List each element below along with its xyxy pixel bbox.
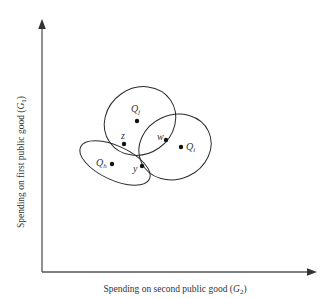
point-qj [135,119,139,123]
indifference-diagram: Qj Qi Qh z w y Spending on second public… [0,0,336,298]
y-axis-title: Spending on first public good (G1) [16,96,28,228]
label-qj: Qj [131,103,140,116]
point-qi [179,145,183,149]
x-axis-title: Spending on second public good (G2) [103,284,246,296]
label-qi: Qi [186,141,195,154]
indifference-ellipse-h [73,132,156,195]
indifference-ellipse-i [128,102,222,191]
point-z [122,142,126,146]
point-qh [110,162,114,166]
label-y: y [132,163,138,174]
point-y [140,164,144,168]
point-w [164,138,168,142]
indifference-ellipse-j [91,73,189,170]
label-w: w [157,131,164,142]
label-qh: Qh [96,157,107,170]
label-z: z [120,130,125,141]
